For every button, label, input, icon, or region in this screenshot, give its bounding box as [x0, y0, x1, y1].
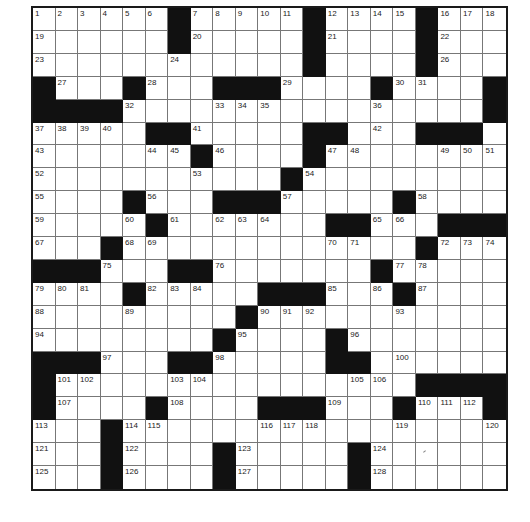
answer-cell[interactable]: 6	[146, 8, 169, 31]
answer-cell[interactable]	[326, 100, 349, 123]
answer-cell[interactable]: 108	[168, 397, 191, 420]
answer-cell[interactable]	[483, 168, 506, 191]
answer-cell[interactable]	[168, 237, 191, 260]
answer-cell[interactable]: 85	[326, 283, 349, 306]
answer-cell[interactable]	[146, 31, 169, 54]
answer-cell[interactable]	[78, 397, 101, 420]
answer-cell[interactable]	[348, 306, 371, 329]
answer-cell[interactable]	[236, 397, 259, 420]
answer-cell[interactable]	[371, 420, 394, 443]
answer-cell[interactable]: 5	[123, 8, 146, 31]
answer-cell[interactable]	[326, 374, 349, 397]
answer-cell[interactable]: 71	[348, 237, 371, 260]
answer-cell[interactable]	[461, 352, 484, 375]
answer-cell[interactable]	[258, 466, 281, 489]
answer-cell[interactable]	[416, 100, 439, 123]
answer-cell[interactable]: 125	[33, 466, 56, 489]
answer-cell[interactable]: 17	[461, 8, 484, 31]
answer-cell[interactable]	[281, 352, 304, 375]
answer-cell[interactable]: 1	[33, 8, 56, 31]
answer-cell[interactable]	[483, 123, 506, 146]
answer-cell[interactable]: 80	[56, 283, 79, 306]
answer-cell[interactable]: 87	[416, 283, 439, 306]
answer-cell[interactable]	[461, 420, 484, 443]
answer-cell[interactable]	[146, 306, 169, 329]
answer-cell[interactable]: 117	[281, 420, 304, 443]
answer-cell[interactable]	[213, 374, 236, 397]
answer-cell[interactable]	[236, 123, 259, 146]
answer-cell[interactable]: 51	[483, 145, 506, 168]
answer-cell[interactable]	[123, 352, 146, 375]
answer-cell[interactable]: 60	[123, 214, 146, 237]
answer-cell[interactable]	[78, 54, 101, 77]
answer-cell[interactable]	[303, 77, 326, 100]
answer-cell[interactable]	[348, 420, 371, 443]
answer-cell[interactable]: 30	[393, 77, 416, 100]
answer-cell[interactable]	[281, 374, 304, 397]
answer-cell[interactable]: 98	[213, 352, 236, 375]
answer-cell[interactable]	[416, 306, 439, 329]
answer-cell[interactable]	[461, 168, 484, 191]
answer-cell[interactable]	[146, 329, 169, 352]
answer-cell[interactable]	[438, 168, 461, 191]
answer-cell[interactable]: 127	[236, 466, 259, 489]
answer-cell[interactable]	[483, 31, 506, 54]
answer-cell[interactable]	[168, 466, 191, 489]
answer-cell[interactable]: 18	[483, 8, 506, 31]
answer-cell[interactable]	[438, 306, 461, 329]
answer-cell[interactable]	[258, 329, 281, 352]
answer-cell[interactable]	[56, 214, 79, 237]
answer-cell[interactable]: 110	[416, 397, 439, 420]
answer-cell[interactable]	[101, 191, 124, 214]
answer-cell[interactable]: 45	[168, 145, 191, 168]
answer-cell[interactable]	[371, 329, 394, 352]
answer-cell[interactable]	[101, 31, 124, 54]
answer-cell[interactable]: 68	[123, 237, 146, 260]
answer-cell[interactable]	[461, 443, 484, 466]
answer-cell[interactable]	[101, 397, 124, 420]
answer-cell[interactable]	[348, 283, 371, 306]
answer-cell[interactable]	[168, 77, 191, 100]
answer-cell[interactable]: 106	[371, 374, 394, 397]
answer-cell[interactable]: 102	[78, 374, 101, 397]
answer-cell[interactable]	[393, 123, 416, 146]
answer-cell[interactable]	[258, 237, 281, 260]
answer-cell[interactable]	[191, 214, 214, 237]
answer-cell[interactable]	[236, 168, 259, 191]
answer-cell[interactable]: 89	[123, 306, 146, 329]
answer-cell[interactable]: 14	[371, 8, 394, 31]
answer-cell[interactable]	[56, 420, 79, 443]
answer-cell[interactable]	[78, 168, 101, 191]
answer-cell[interactable]	[213, 31, 236, 54]
answer-cell[interactable]: 33	[213, 100, 236, 123]
answer-cell[interactable]	[461, 31, 484, 54]
answer-cell[interactable]	[393, 145, 416, 168]
answer-cell[interactable]	[483, 306, 506, 329]
answer-cell[interactable]: 74	[483, 237, 506, 260]
answer-cell[interactable]: 19	[33, 31, 56, 54]
answer-cell[interactable]	[146, 100, 169, 123]
answer-cell[interactable]	[393, 466, 416, 489]
answer-cell[interactable]: 76	[213, 260, 236, 283]
answer-cell[interactable]: 63	[236, 214, 259, 237]
answer-cell[interactable]	[483, 466, 506, 489]
answer-cell[interactable]	[258, 352, 281, 375]
answer-cell[interactable]: 10	[258, 8, 281, 31]
answer-cell[interactable]: 22	[438, 31, 461, 54]
answer-cell[interactable]	[258, 123, 281, 146]
answer-cell[interactable]: 118	[303, 420, 326, 443]
answer-cell[interactable]	[191, 420, 214, 443]
answer-cell[interactable]	[438, 329, 461, 352]
answer-cell[interactable]	[348, 123, 371, 146]
answer-cell[interactable]	[416, 352, 439, 375]
answer-cell[interactable]	[191, 329, 214, 352]
answer-cell[interactable]	[191, 466, 214, 489]
answer-cell[interactable]: 26	[438, 54, 461, 77]
answer-cell[interactable]	[483, 260, 506, 283]
answer-cell[interactable]	[56, 306, 79, 329]
answer-cell[interactable]	[78, 443, 101, 466]
answer-cell[interactable]: 13	[348, 8, 371, 31]
answer-cell[interactable]	[483, 443, 506, 466]
answer-cell[interactable]: 43	[33, 145, 56, 168]
answer-cell[interactable]	[213, 306, 236, 329]
